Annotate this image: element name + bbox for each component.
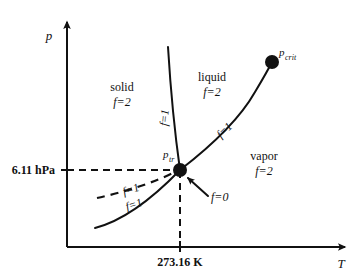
melting-curve-freedom-label: f=1 [157, 109, 172, 127]
critical-point-label-base: p [278, 46, 285, 58]
region-label-liquid: liquid f=2 [198, 70, 226, 99]
region-label-vapor: vapor f=2 [250, 149, 277, 178]
critical-point-marker [265, 55, 279, 69]
critical-point-label-subscript: crit [285, 53, 297, 62]
x-axis-label: T [337, 256, 345, 271]
triple-point-label: p tr [162, 148, 175, 164]
region-label-solid: solid f=2 [110, 80, 133, 109]
region-freedom-liquid: f=2 [203, 85, 220, 99]
x-axis-tick-label: 273.16 K [157, 255, 203, 269]
triple-point-arrow [188, 178, 208, 196]
axes-group [67, 22, 345, 247]
triple-point-marker [173, 163, 187, 177]
region-freedom-vapor: f=2 [255, 164, 272, 178]
triple-point-freedom-label: f=0 [211, 190, 228, 204]
phase-diagram-figure: p T 6.11 hPa 273.16 K p tr p [0, 0, 363, 279]
region-name-liquid: liquid [198, 70, 226, 84]
region-freedom-solid: f=2 [113, 95, 130, 109]
phase-diagram-canvas: p T 6.11 hPa 273.16 K p tr p [0, 0, 363, 279]
triple-point-label-subscript: tr [169, 155, 175, 164]
melting-curve [168, 47, 180, 170]
region-name-solid: solid [110, 80, 133, 94]
triple-point-label-base: p [162, 148, 169, 160]
critical-point-label: p crit [278, 46, 297, 62]
y-axis-label: p [45, 28, 53, 43]
y-axis-tick-label: 6.11 hPa [12, 163, 55, 177]
region-name-vapor: vapor [250, 149, 277, 163]
